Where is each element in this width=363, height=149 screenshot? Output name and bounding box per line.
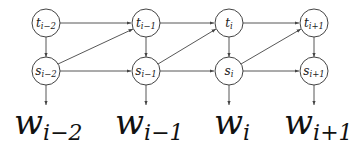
node-t-i-minus-1: ti−1 [132, 9, 160, 37]
label-w-i-plus-1: wi+1 [284, 102, 353, 145]
edge-s1-t2 [158, 29, 216, 64]
node-s-i-minus-2: si−2 [32, 57, 60, 85]
node-t-i-minus-2: ti−2 [32, 9, 60, 37]
edge-s2-t3 [241, 29, 301, 64]
graphical-model-diagram: ti−2 ti−1 ti ti+1 si−2 si−1 si si+1 wi−2… [0, 0, 363, 149]
label-w-i-minus-2: wi−2 [14, 102, 83, 145]
edge-s0-t1 [58, 29, 133, 64]
label-w-i-minus-1: wi−1 [115, 102, 184, 145]
node-t-i: ti [215, 9, 243, 37]
node-s-i-minus-1: si−1 [132, 57, 160, 85]
label-w-i: wi [214, 102, 250, 145]
node-s-i-plus-1: si+1 [300, 57, 328, 85]
node-t-i-plus-1: ti+1 [300, 9, 328, 37]
node-s-i: si [215, 57, 243, 85]
